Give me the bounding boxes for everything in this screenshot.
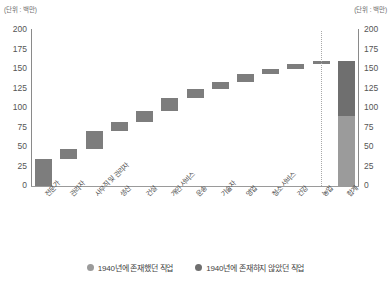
waterfall-chart: (단위 : 백만) (단위 : 백만) 20017515012510075502… xyxy=(0,0,391,284)
waterfall-bar xyxy=(237,74,254,82)
y-axis-tick-label-right: 75 xyxy=(364,123,388,132)
y-axis-tick-label-left: 150 xyxy=(3,64,27,73)
waterfall-bar xyxy=(287,64,304,69)
chart-legend: 1940년에 존재했던 직업1940년에 존재하지 않았던 직업 xyxy=(0,262,391,273)
legend-label: 1940년에 존재했던 직업 xyxy=(98,262,173,273)
y-axis-tick-label-right: 50 xyxy=(364,142,388,151)
waterfall-bar xyxy=(136,111,153,122)
total-separator-line xyxy=(321,31,322,186)
y-axis-tick-label-left: 75 xyxy=(3,123,27,132)
y-axis-tick-label-left: 0 xyxy=(3,181,27,190)
y-axis-tick-label-left: 25 xyxy=(3,162,27,171)
waterfall-bar xyxy=(212,82,229,89)
y-axis-tick-label-right: 0 xyxy=(364,181,388,190)
y-axis-tick-label-right: 200 xyxy=(364,25,388,34)
legend-item: 1940년에 존재했던 직업 xyxy=(87,262,173,273)
waterfall-bar xyxy=(86,131,103,149)
waterfall-bar xyxy=(262,69,279,74)
y-axis-tick-label-left: 50 xyxy=(3,142,27,151)
circle-marker-icon xyxy=(195,264,202,271)
y-axis-tick-label-right: 125 xyxy=(364,84,388,93)
total-bar-segment-existing-jobs xyxy=(338,116,355,186)
waterfall-bar xyxy=(60,149,77,158)
y-axis-tick-label-right: 25 xyxy=(364,162,388,171)
waterfall-bar xyxy=(111,122,128,131)
total-bar-segment-new-jobs xyxy=(338,61,355,116)
legend-item: 1940년에 존재하지 않았던 직업 xyxy=(195,262,304,273)
waterfall-bar xyxy=(187,89,204,98)
y-axis-tick-label-left: 200 xyxy=(3,25,27,34)
y-axis-tick-label-right: 150 xyxy=(364,64,388,73)
legend-label: 1940년에 존재하지 않았던 직업 xyxy=(206,262,304,273)
y-axis-tick-label-right: 100 xyxy=(364,103,388,112)
unit-note-left: (단위 : 백만) xyxy=(4,4,37,14)
y-axis-tick-label-right: 175 xyxy=(364,45,388,54)
unit-note-right: (단위 : 백만) xyxy=(354,4,387,14)
y-axis-tick-label-left: 175 xyxy=(3,45,27,54)
plot-area xyxy=(31,30,359,186)
y-axis-tick-label-left: 100 xyxy=(3,103,27,112)
circle-marker-icon xyxy=(87,264,94,271)
y-axis-tick-label-left: 125 xyxy=(3,84,27,93)
waterfall-bar xyxy=(161,98,178,111)
